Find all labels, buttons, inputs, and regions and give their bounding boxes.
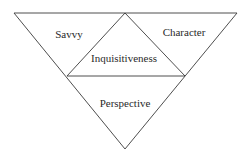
label-character: Character [163, 26, 206, 38]
triangle-diagram: Savvy Character Inquisitiveness Perspect… [0, 0, 251, 161]
region-labels: Savvy Character Inquisitiveness Perspect… [55, 26, 205, 109]
label-savvy: Savvy [55, 28, 83, 40]
label-perspective: Perspective [100, 97, 151, 109]
label-inquisitiveness: Inquisitiveness [91, 52, 157, 64]
inner-edge-right [125, 13, 185, 76]
diagram-canvas: Savvy Character Inquisitiveness Perspect… [0, 0, 251, 161]
inner-edge-left [67, 13, 125, 76]
